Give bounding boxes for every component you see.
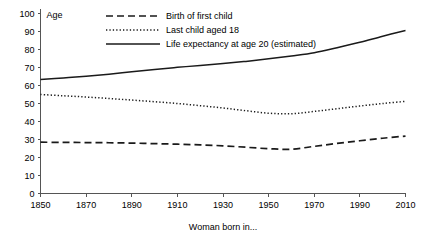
y-tick-label: 30 <box>24 135 34 145</box>
chart-container: 0102030405060708090100 18501870189019101… <box>0 0 426 239</box>
legend-label: Last child aged 18 <box>166 25 239 35</box>
x-tick-label: 1890 <box>122 200 142 210</box>
y-axis: 0102030405060708090100 <box>19 9 40 199</box>
legend-label: Birth of first child <box>166 11 233 21</box>
y-tick-label: 90 <box>24 27 34 37</box>
y-tick-label: 0 <box>29 189 34 199</box>
y-tick-label: 60 <box>24 81 34 91</box>
x-tick-label: 1990 <box>350 200 370 210</box>
y-tick-label: 80 <box>24 45 34 55</box>
x-tick-label: 2010 <box>395 200 415 210</box>
y-tick-label: 40 <box>24 117 34 127</box>
x-tick-label: 1950 <box>259 200 279 210</box>
x-tick-label: 1930 <box>213 200 233 210</box>
y-tick-label: 70 <box>24 63 34 73</box>
x-axis: 185018701890191019301950197019902010 <box>30 194 415 210</box>
y-tick-label: 10 <box>24 171 34 181</box>
series-line-birth-of-first-child <box>41 136 406 149</box>
legend-label: Life expectancy at age 20 (estimated) <box>166 39 316 49</box>
x-tick-label: 1870 <box>76 200 96 210</box>
series-line-life-expectancy-at-age-20-estimated <box>41 30 406 79</box>
y-tick-label: 100 <box>19 9 34 19</box>
chart-legend: Birth of first childLast child aged 18Li… <box>106 11 316 49</box>
y-tick-label: 20 <box>24 153 34 163</box>
y-axis-title: Age <box>47 10 63 20</box>
x-axis-title: Woman born in... <box>189 222 257 232</box>
series-line-last-child-aged-18 <box>41 95 406 114</box>
x-tick-label: 1970 <box>304 200 324 210</box>
x-tick-label: 1850 <box>30 200 50 210</box>
y-tick-label: 50 <box>24 99 34 109</box>
line-chart: 0102030405060708090100 18501870189019101… <box>0 0 426 239</box>
x-tick-label: 1910 <box>167 200 187 210</box>
